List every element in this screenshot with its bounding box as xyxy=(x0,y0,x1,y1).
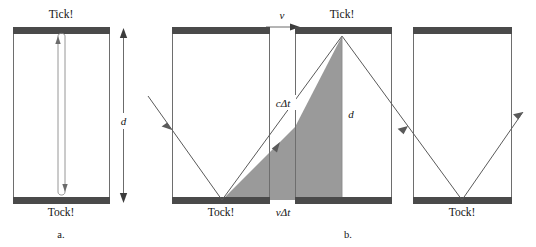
c-delta-t-label: cΔt xyxy=(276,97,291,109)
box-left-top-mirror xyxy=(172,27,270,34)
ray-down-arrowhead xyxy=(398,126,408,134)
panel-b-caption: b. xyxy=(344,229,352,240)
velocity-arrow: v xyxy=(266,9,300,31)
box-left-tock-label: Tock! xyxy=(208,206,235,218)
panel-b-group: v Tick! Tock! xyxy=(148,8,523,240)
box-middle-bottom-mirror xyxy=(295,197,392,204)
panel-a-tick-label: Tick! xyxy=(49,8,74,20)
panel-a-d-label: d xyxy=(121,115,127,127)
panel-a-tock-label: Tock! xyxy=(48,206,75,218)
panel-a-light-path xyxy=(55,33,67,195)
box-right-tock-label: Tock! xyxy=(449,206,476,218)
ray-out-arrowhead xyxy=(513,112,523,119)
panel-a-caption: a. xyxy=(57,229,64,240)
panel-a-down-arrowhead xyxy=(62,184,67,192)
velocity-label: v xyxy=(280,9,285,21)
panel-b-d-label: d xyxy=(348,108,354,120)
box-middle-top-mirror xyxy=(295,27,392,34)
panel-a-distance-dimension: d xyxy=(117,28,130,203)
panel-b-distance-dimension: d xyxy=(342,36,358,197)
panel-a-bottom-mirror xyxy=(13,197,110,204)
ray-in-arrowhead xyxy=(162,123,172,130)
panel-a-group: Tick! d Tock! a. xyxy=(13,8,130,240)
light-clock-figure: Tick! d Tock! a. v xyxy=(0,0,536,247)
box-right-bottom-mirror xyxy=(413,197,512,204)
panel-a-walls xyxy=(14,34,110,197)
box-right-top-mirror xyxy=(413,27,512,34)
panel-b-tick-label: Tick! xyxy=(330,8,355,20)
v-delta-t-label: vΔt xyxy=(276,206,291,218)
panel-a-up-arrowhead xyxy=(55,36,60,44)
box-right-walls xyxy=(414,34,512,197)
clock-box-right: Tock! xyxy=(413,27,512,218)
